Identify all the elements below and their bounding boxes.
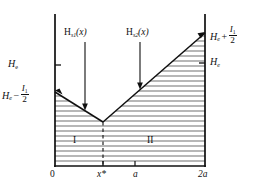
curve-label-hs1: Hs1(x) (64, 28, 87, 39)
half-i1-fraction-right: I12 (229, 25, 237, 46)
curve-hs1 (55, 92, 103, 122)
curve-label-hs2: Hs2(x) (126, 28, 149, 39)
axis-label-he-right: He (210, 57, 220, 68)
axis-label-he-minus-half-i1: He−I12 (2, 84, 29, 105)
region-label-ii: II (147, 136, 153, 146)
curve-hs2 (103, 33, 205, 122)
region-label-i: I (73, 136, 76, 146)
minus-operator: − (12, 90, 21, 101)
plus-operator: + (220, 31, 229, 42)
axis-label-he-plus-half-i1: He+I12 (210, 25, 237, 46)
x-tick-label-x-star: x* (97, 170, 106, 180)
hs2-end-arrowhead (198, 32, 206, 38)
half-i1-fraction: I12 (21, 84, 29, 105)
field-profile-figure: He He−I12 He+I12 He Hs1(x) Hs2(x) I II 0… (0, 0, 255, 190)
he-left-subscript: e (15, 63, 18, 70)
x-tick-label-2a: 2a (198, 170, 208, 180)
x-tick-label-a: a (133, 170, 138, 180)
x-tick-label-origin: 0 (50, 170, 55, 180)
axis-label-he-left: He (8, 59, 18, 70)
